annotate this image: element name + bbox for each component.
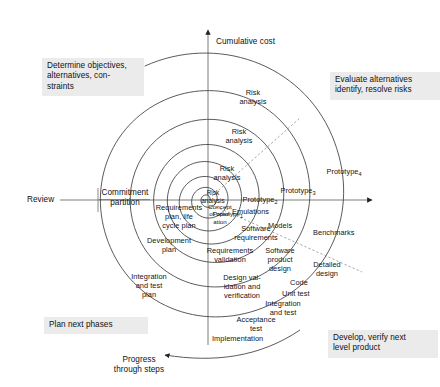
stage-prototype-4: Prototype4 <box>318 158 362 187</box>
stage-risk-analysis-4: Risk analysis <box>232 88 274 106</box>
stage-unit-test: Unit test <box>282 289 310 298</box>
stage-development-plan: Development plan <box>140 236 198 254</box>
prototype-4-subscript: 4 <box>359 171 362 177</box>
prototype-3-text: Prototype <box>280 186 312 195</box>
prototype-2-text: Prototype <box>242 195 274 204</box>
stage-code: Code <box>290 278 308 287</box>
stage-software-requirements: Software requirements <box>228 224 284 242</box>
stage-design-validation: Design val- idation and verification <box>218 273 266 301</box>
quadrant-label-determine-objectives: Determine objectives, alternatives, con-… <box>42 58 144 96</box>
stage-concept-of-operation: Concept of oper- ation <box>205 203 235 225</box>
quadrant-label-plan-next-phases: Plan next phases <box>44 317 148 334</box>
quadrant-label-evaluate-alternatives: Evaluate alternatives identify, resolve … <box>330 72 440 100</box>
stage-benchmarks: Benchmarks <box>313 228 355 237</box>
stage-emulations: Emulations <box>232 207 269 216</box>
axis-label-progress-through-steps: Progress through steps <box>108 355 170 375</box>
axis-label-commitment-partition: Commitment partition <box>100 188 150 208</box>
stage-requirements-plan: Requirements plan, life cycle plan <box>151 203 207 231</box>
stage-acceptance-test: Acceptance test <box>230 315 282 333</box>
quadrant-label-develop-verify: Develop, verify next level product <box>328 330 438 358</box>
stage-detailed-design: Detailed design <box>305 260 349 278</box>
axis-label-cumulative-cost: Cumulative cost <box>216 37 275 47</box>
stage-risk-analysis-2: Risk analysis <box>206 164 248 182</box>
axis-label-review: Review <box>27 195 54 205</box>
prototype-3-subscript: 3 <box>313 190 316 196</box>
stage-implementation: Implementation <box>212 334 263 343</box>
prototype-2-subscript: 2 <box>275 199 278 205</box>
stage-integration-and-test-plan: Integration and test plan <box>123 272 175 300</box>
stage-risk-analysis-3: Risk analysis <box>218 127 260 145</box>
stage-requirements-validation: Requirements validation <box>202 246 258 264</box>
stage-software-product-design: Software product design <box>258 246 302 274</box>
prototype-4-text: Prototype <box>326 167 358 176</box>
stage-prototype-3: Prototype3 <box>272 177 316 206</box>
